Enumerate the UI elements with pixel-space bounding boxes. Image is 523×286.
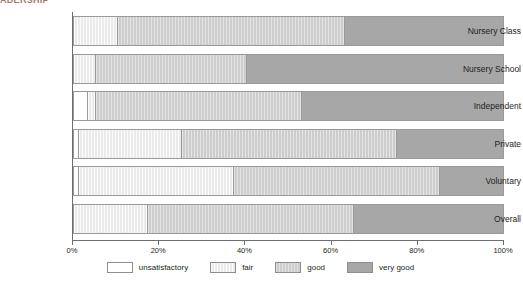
- chart-legend: unsatisfactoryfairgoodvery good: [0, 262, 521, 273]
- bar-segment-good: [95, 92, 301, 120]
- legend-label: unsatisfactory: [139, 263, 188, 272]
- x-axis-tick: [417, 241, 418, 245]
- x-axis-tick-label: 80%: [397, 246, 437, 255]
- chart-plot-area: [72, 12, 504, 240]
- x-axis-tick-label: 100%: [483, 246, 523, 255]
- x-axis-tick-label: 20%: [138, 246, 178, 255]
- x-axis-tick-label: 60%: [311, 246, 351, 255]
- bar-row: [73, 91, 504, 121]
- legend-swatch-verygood: [347, 262, 373, 273]
- legend-swatch-good: [275, 262, 301, 273]
- bar-row: [73, 166, 504, 196]
- x-axis-tick: [331, 241, 332, 245]
- bar-segment-fair: [74, 17, 117, 45]
- legend-item-verygood[interactable]: very good: [347, 262, 414, 273]
- bar-segment-fair: [78, 130, 181, 158]
- legend-label: good: [307, 263, 325, 272]
- bar-segment-good: [181, 130, 396, 158]
- legend-swatch-fair: [210, 262, 236, 273]
- stacked-bar: [73, 54, 504, 84]
- bar-segment-unsatisfactory: [74, 92, 87, 120]
- bar-segment-fair: [78, 167, 232, 195]
- stacked-bar: [73, 204, 504, 234]
- y-axis-label: Nursery Class: [455, 26, 521, 36]
- x-axis-tick: [244, 241, 245, 245]
- legend-item-good[interactable]: good: [275, 262, 325, 273]
- bar-segment-fair: [87, 92, 96, 120]
- legend-label: very good: [379, 263, 414, 272]
- stacked-bar: [73, 16, 504, 46]
- x-axis-tick: [72, 241, 73, 245]
- bar-segment-fair: [74, 55, 95, 83]
- y-axis-label: Voluntary: [455, 176, 521, 186]
- bar-row: [73, 129, 504, 159]
- stacked-bar: [73, 166, 504, 196]
- legend-item-fair[interactable]: fair: [210, 262, 253, 273]
- stacked-bar: [73, 91, 504, 121]
- bar-segment-good: [117, 17, 344, 45]
- y-axis-label: Independent: [455, 101, 521, 111]
- x-axis-line: [72, 240, 504, 241]
- legend-label: fair: [242, 263, 253, 272]
- bar-segment-good: [95, 55, 245, 83]
- stacked-bar: [73, 129, 504, 159]
- bar-segment-fair: [74, 205, 147, 233]
- y-axis-label: Nursery School: [455, 64, 521, 74]
- legend-swatch-unsatisfactory: [107, 262, 133, 273]
- x-axis-tick-label: 0%: [52, 246, 92, 255]
- bar-segment-good: [147, 205, 353, 233]
- y-axis-label: Private: [455, 139, 521, 149]
- legend-item-unsatisfactory[interactable]: unsatisfactory: [107, 262, 188, 273]
- bar-row: [73, 54, 504, 84]
- y-axis-label: Overall: [455, 214, 521, 224]
- x-axis-tick-label: 40%: [224, 246, 264, 255]
- x-axis-tick: [503, 241, 504, 245]
- cropped-heading-fragment: ADERSHIP: [0, 0, 60, 6]
- x-axis-tick: [158, 241, 159, 245]
- bar-row: [73, 16, 504, 46]
- bar-row: [73, 204, 504, 234]
- bar-segment-good: [233, 167, 439, 195]
